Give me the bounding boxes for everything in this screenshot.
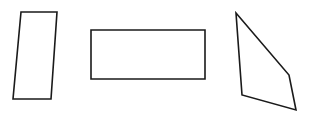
shape-rectangle [91,30,205,79]
figure-canvas [0,0,311,121]
shape-irregular-quadrilateral [236,13,296,110]
shape-parallelogram [13,12,57,99]
shapes-svg [0,0,311,121]
